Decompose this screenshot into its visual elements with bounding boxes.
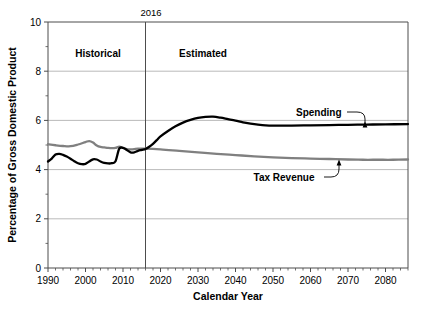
x-tick-label: 2010 <box>112 275 135 286</box>
divider-year-label: 2016 <box>140 7 161 18</box>
y-tick-label: 0 <box>35 263 41 274</box>
x-axis-title: Calendar Year <box>193 290 263 302</box>
x-axis-ticks <box>48 268 408 272</box>
x-tick-label: 2060 <box>299 275 322 286</box>
x-tick-label: 2030 <box>187 275 210 286</box>
y-tick-label: 6 <box>35 115 41 126</box>
estimated-region-label: Estimated <box>179 48 227 59</box>
x-tick-label: 2050 <box>262 275 285 286</box>
y-axis-tick-labels: 0246810 <box>30 17 42 274</box>
spending-series-label: Spending <box>296 107 342 118</box>
historical-region-label: Historical <box>75 48 121 59</box>
x-tick-label: 2020 <box>149 275 172 286</box>
y-tick-label: 8 <box>35 66 41 77</box>
x-tick-label: 2070 <box>337 275 360 286</box>
y-tick-label: 10 <box>30 17 42 28</box>
chart-canvas: 1990200020102020203020402050206020702080… <box>0 0 425 312</box>
x-tick-label: 2000 <box>74 275 97 286</box>
y-tick-label: 2 <box>35 213 41 224</box>
y-tick-label: 4 <box>35 164 41 175</box>
x-tick-label: 1990 <box>37 275 60 286</box>
x-tick-label: 2080 <box>374 275 397 286</box>
tax-revenue-series-label: Tax Revenue <box>254 172 315 183</box>
x-axis-tick-labels: 1990200020102020203020402050206020702080 <box>37 275 397 286</box>
chart-figure: 1990200020102020203020402050206020702080… <box>0 0 425 312</box>
y-axis-title: Percentage of Gross Domestic Product <box>6 47 18 243</box>
x-tick-label: 2040 <box>224 275 247 286</box>
